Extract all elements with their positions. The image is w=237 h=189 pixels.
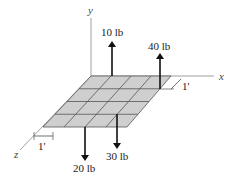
- force-label-20lb: 20 lb: [73, 162, 96, 174]
- dimension-label-x: 1': [182, 80, 190, 92]
- plate-grid: [43, 76, 171, 127]
- z-axis-label: z: [13, 148, 19, 160]
- force-label-30lb: 30 lb: [106, 150, 129, 162]
- x-axis-label: x: [218, 70, 224, 82]
- force-diagram: 10 lb 40 lb 20 lb 30 lb 1' 1' y x z: [0, 0, 237, 189]
- dimension-z-spacing: [34, 132, 53, 140]
- y-axis-label: y: [87, 4, 93, 16]
- force-label-40lb: 40 lb: [148, 40, 171, 52]
- dimension-label-z: 1': [38, 140, 46, 152]
- force-label-10lb: 10 lb: [101, 26, 124, 38]
